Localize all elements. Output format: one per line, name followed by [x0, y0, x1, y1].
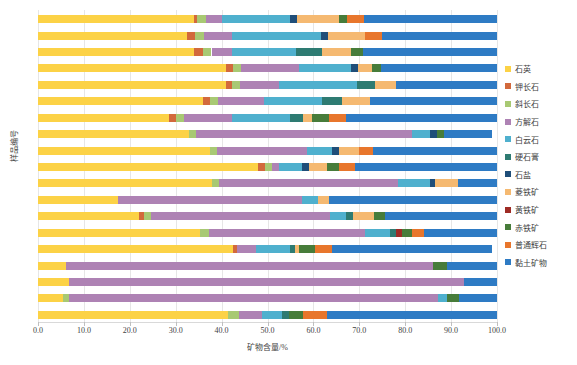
x-axis-tick [451, 322, 452, 326]
bar-segment-石英 [38, 245, 233, 253]
bar-segment-钾长石 [226, 64, 233, 72]
bar-segment-石英 [38, 97, 203, 105]
x-axis-tick-label: 30.0 [156, 326, 196, 335]
bar-segment-斜长石 [203, 48, 211, 56]
bar-row: 14 [38, 97, 497, 105]
bar-segment-方解石 [217, 147, 307, 155]
bar-row: 16 [38, 64, 497, 72]
legend-swatch-icon [505, 259, 511, 265]
bar-segment-普通辉石 [315, 245, 332, 253]
bar-segment-赤铁矿 [289, 311, 303, 319]
bar-segment-黏土矿物 [382, 32, 497, 40]
bar-segment-菱铁矿 [353, 212, 374, 220]
x-axis-tick-labels: 0.010.020.030.040.050.060.070.080.090.01… [38, 326, 497, 340]
legend-item[interactable]: 方解石 [505, 113, 577, 131]
gridline [497, 10, 498, 322]
bar-segment-黏土矿物 [381, 64, 497, 72]
bar-segment-斜长石 [265, 163, 272, 171]
bar-segment-硬石膏 [357, 81, 375, 89]
legend-label: 白云石 [515, 134, 539, 145]
bar-segment-赤铁矿 [447, 294, 458, 302]
bar-segment-黏土矿物 [396, 81, 497, 89]
legend-item[interactable]: 石英 [505, 60, 577, 78]
bar-row: 8 [38, 196, 497, 204]
legend-item[interactable]: 石盐 [505, 166, 577, 184]
legend-swatch-icon [505, 189, 511, 195]
legend-item[interactable]: 黏土矿物 [505, 254, 577, 272]
x-axis-tick [222, 322, 223, 326]
bar-segment-斜长石 [189, 130, 196, 138]
legend-label: 斜长石 [515, 98, 539, 109]
bar-segment-钾长石 [203, 97, 210, 105]
bar-row: 15 [38, 81, 497, 89]
x-axis-tick [313, 322, 314, 326]
x-axis-tick [130, 322, 131, 326]
bar-segment-赤铁矿 [437, 130, 444, 138]
bar-segment-普通辉石 [365, 32, 382, 40]
legend-item[interactable]: 赤铁矿 [505, 218, 577, 236]
plot-area: 12345678910111213141516171819 [38, 10, 497, 322]
bar-segment-黏土矿物 [332, 245, 493, 253]
x-axis-tick [405, 322, 406, 326]
bar-segment-菱铁矿 [322, 48, 352, 56]
bar-row: 7 [38, 212, 497, 220]
bar-segment-黏土矿物 [424, 229, 497, 237]
legend-swatch-icon [505, 83, 511, 89]
x-axis-tick-label: 40.0 [202, 326, 242, 335]
x-axis-tick [38, 322, 39, 326]
bar-segment-石英 [38, 32, 187, 40]
bar-segment-石英 [38, 262, 66, 270]
x-axis-tick [359, 322, 360, 326]
bar-row: 11 [38, 147, 497, 155]
bar-segment-斜长石 [210, 147, 217, 155]
x-axis-tick [176, 322, 177, 326]
legend-item[interactable]: 硬石膏 [505, 148, 577, 166]
bar-segment-方解石 [69, 294, 438, 302]
legend-label: 赤铁矿 [515, 222, 539, 233]
bar-segment-钾长石 [258, 163, 265, 171]
bar-segment-硬石膏 [346, 212, 353, 220]
bar-segment-黏土矿物 [346, 114, 497, 122]
bar-segment-黏土矿物 [459, 294, 497, 302]
bar-row: 10 [38, 163, 497, 171]
bar-segment-石英 [38, 229, 200, 237]
legend-label: 石盐 [515, 169, 531, 180]
legend-item[interactable]: 普通辉石 [505, 236, 577, 254]
legend-item[interactable]: 斜长石 [505, 95, 577, 113]
bar-segment-石英 [38, 294, 63, 302]
bar-segment-硬石膏 [282, 311, 289, 319]
bar-row: 12 [38, 130, 497, 138]
bar-segment-石盐 [321, 32, 328, 40]
bar-segment-斜长石 [200, 229, 209, 237]
bar-segment-石盐 [290, 15, 297, 23]
bar-segment-普通辉石 [359, 147, 373, 155]
legend-item[interactable]: 钾长石 [505, 78, 577, 96]
x-axis-tick-label: 20.0 [110, 326, 150, 335]
bar-segment-白云石 [398, 179, 430, 187]
legend-item[interactable]: 白云石 [505, 130, 577, 148]
legend-swatch-icon [505, 154, 511, 160]
bar-segment-石英 [38, 311, 228, 319]
bar-segment-白云石 [264, 97, 321, 105]
bar-segment-赤铁矿 [312, 114, 328, 122]
x-axis-tick-label: 70.0 [339, 326, 379, 335]
legend-item[interactable]: 菱铁矿 [505, 183, 577, 201]
bar-segment-石英 [38, 81, 226, 89]
bar-segment-方解石 [237, 245, 255, 253]
bar-row: 18 [38, 32, 497, 40]
bar-segment-白云石 [412, 130, 430, 138]
bar-segment-白云石 [232, 32, 322, 40]
bar-segment-普通辉石 [329, 114, 346, 122]
bar-segment-方解石 [212, 48, 233, 56]
bar-row: 5 [38, 245, 497, 253]
bar-segment-斜长石 [197, 15, 205, 23]
x-axis-tick-label: 10.0 [64, 326, 104, 335]
x-axis-title: 矿物含量/% [38, 341, 497, 352]
bar-segment-黏土矿物 [329, 196, 497, 204]
bar-segment-白云石 [232, 48, 296, 56]
bar-segment-方解石 [241, 64, 298, 72]
bar-segment-石英 [38, 179, 212, 187]
legend-swatch-icon [505, 66, 511, 72]
legend-item[interactable]: 黄铁矿 [505, 201, 577, 219]
x-axis-tick-label: 50.0 [248, 326, 288, 335]
